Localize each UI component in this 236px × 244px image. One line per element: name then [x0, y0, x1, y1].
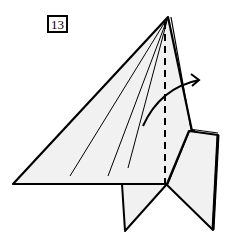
- origami-diagram: [0, 0, 236, 244]
- lower-left-flap: [122, 184, 167, 231]
- main-triangle-flap: [13, 17, 195, 184]
